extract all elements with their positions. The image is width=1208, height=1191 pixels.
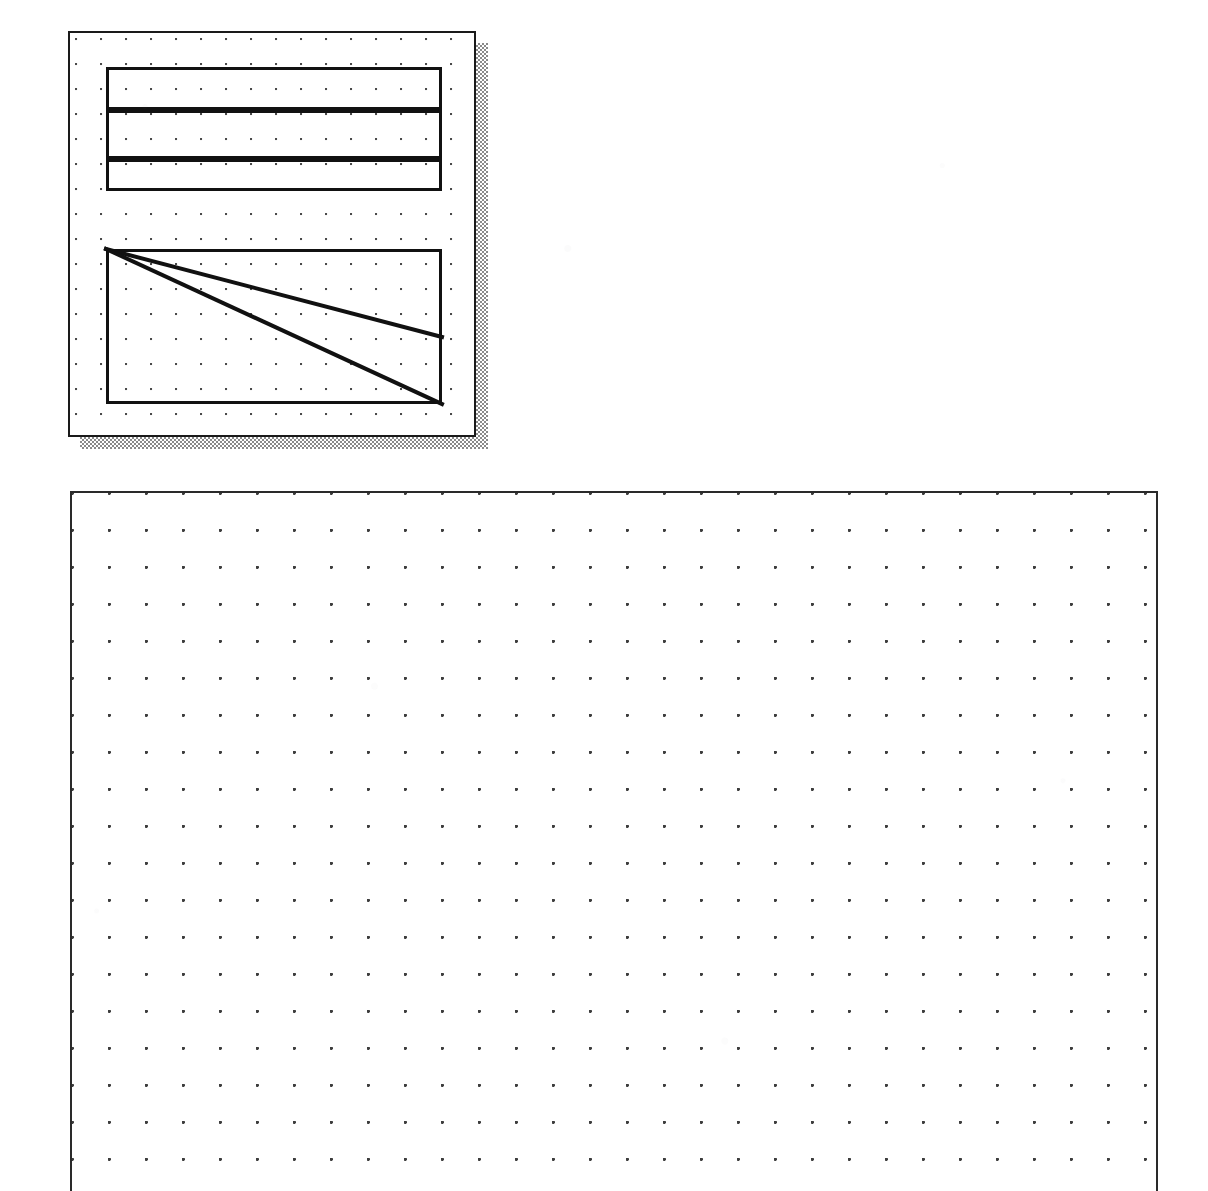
band-rect-middle[interactable] [106, 110, 442, 159]
diagonal-lines-group [106, 249, 442, 404]
diagonal-upper-line[interactable] [106, 249, 442, 337]
band-rect-bottom[interactable] [106, 159, 442, 191]
main-canvas-panel[interactable] [70, 491, 1158, 1191]
diagonal-lower-line[interactable] [106, 249, 442, 404]
band-rect-top[interactable] [106, 67, 442, 110]
